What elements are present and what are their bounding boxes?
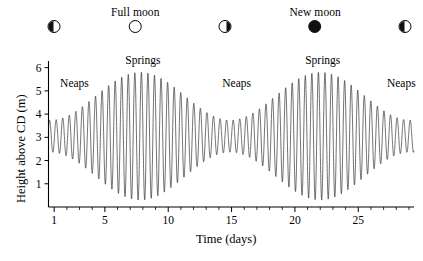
annotation-neaps-mid: Neaps	[222, 77, 251, 89]
x-tick-label: 15	[226, 214, 238, 226]
tide-chart-figure: Full moonNew moon 1234561510152025Time (…	[0, 0, 423, 261]
y-axis-title: Height above CD (m)	[14, 94, 29, 203]
x-tick-label: 10	[162, 214, 174, 226]
x-tick-label: 20	[289, 214, 301, 226]
x-tick-label: 5	[102, 214, 108, 226]
x-axis-title: Time (days)	[196, 232, 256, 247]
y-tick-label: 1	[36, 178, 42, 190]
y-tick-label: 6	[36, 62, 42, 74]
tide-curve	[49, 72, 414, 200]
annotation-neaps-left: Neaps	[60, 77, 89, 89]
x-tick-label: 25	[353, 214, 365, 226]
annotation-springs-left: Springs	[125, 54, 160, 66]
annotation-springs-right: Springs	[305, 54, 340, 66]
x-tick-label: 1	[51, 214, 57, 226]
y-tick-label: 5	[36, 85, 42, 97]
y-tick-label: 2	[36, 155, 42, 167]
annotation-neaps-right: Neaps	[387, 77, 416, 89]
y-tick-label: 3	[36, 131, 42, 143]
y-tick-label: 4	[36, 108, 42, 120]
